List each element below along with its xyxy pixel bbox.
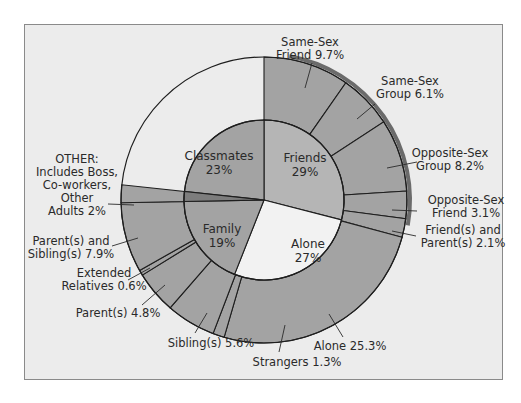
outer-segment-other-includes-boss-co-workers-other-adults xyxy=(121,185,184,203)
annotation-extended: ExtendedRelatives 0.6% xyxy=(61,266,146,293)
annotation-ps: Parent(s) andSibling(s) 7.9% xyxy=(28,234,115,261)
annotation-osg: Opposite-SexGroup 8.2% xyxy=(412,146,489,173)
annotation-fp: Friend(s) andParent(s) 2.1% xyxy=(421,223,506,250)
annotation-osf: Opposite-SexFriend 3.1% xyxy=(428,193,505,220)
annotation-alone: Alone 25.3% xyxy=(314,339,387,353)
annotation-siblings: Sibling(s) 5.6% xyxy=(168,336,255,350)
annotation-other: OTHER:Includes Boss,Co-workers,OtherAdul… xyxy=(36,152,118,218)
nested-donut-chart: Friends29%Alone27%Family19%Classmates23%… xyxy=(0,0,521,403)
annotation-ssf: Same-SexFriend 9.7% xyxy=(276,35,344,62)
annotation-parents: Parent(s) 4.8% xyxy=(76,306,161,320)
inner-label-alone: Alone27% xyxy=(291,237,325,265)
annotation-strangers: Strangers 1.3% xyxy=(253,355,342,369)
annotation-ssg: Same-SexGroup 6.1% xyxy=(376,74,444,101)
